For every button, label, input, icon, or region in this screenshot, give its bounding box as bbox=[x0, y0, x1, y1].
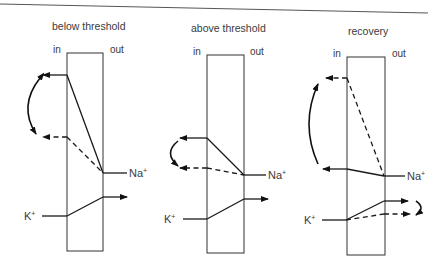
top-rule bbox=[0, 4, 428, 13]
na-ion-label: Na+ bbox=[129, 167, 147, 179]
panel-title: above threshold bbox=[191, 22, 266, 34]
k-ion-label: K+ bbox=[304, 214, 315, 226]
k-ion-label: K+ bbox=[24, 210, 35, 222]
na-solid-path bbox=[347, 169, 384, 176]
panel-above-threshold: above threshold in out Na+ K+ bbox=[164, 22, 286, 253]
in-label: in bbox=[53, 44, 61, 55]
panel-recovery: recovery in out Na+ K+ bbox=[304, 25, 425, 255]
membrane-channel-diagram: below threshold in out Na+ K+ above thre… bbox=[0, 0, 439, 273]
in-label: in bbox=[333, 48, 341, 59]
membrane-box bbox=[67, 53, 103, 251]
membrane-box bbox=[347, 57, 385, 255]
panel-title: recovery bbox=[348, 25, 389, 37]
na-dashed-path bbox=[67, 137, 103, 173]
na-solid-path bbox=[207, 138, 244, 175]
membrane-box bbox=[207, 55, 244, 253]
out-label: out bbox=[392, 48, 406, 59]
bidirectional-curved-arrow bbox=[28, 78, 40, 134]
small-curved-arrow bbox=[416, 201, 421, 215]
panel-below-threshold: below threshold in out Na+ K+ bbox=[24, 20, 147, 251]
na-ion-label: Na+ bbox=[407, 170, 425, 182]
out-label: out bbox=[110, 44, 124, 55]
na-dashed-path bbox=[347, 78, 384, 176]
panel-title: below threshold bbox=[52, 20, 126, 32]
curved-arrow-up bbox=[309, 84, 318, 164]
na-solid-path bbox=[67, 75, 103, 173]
k-solid-path bbox=[207, 199, 244, 219]
k-solid-path bbox=[67, 197, 103, 216]
out-label: out bbox=[250, 46, 264, 57]
na-ion-label: Na+ bbox=[268, 169, 286, 181]
curved-arrow-down bbox=[171, 141, 179, 166]
k-ion-label: K+ bbox=[164, 213, 175, 225]
in-label: in bbox=[193, 46, 201, 57]
